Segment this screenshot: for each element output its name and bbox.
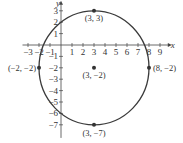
y-tick-label: −3 — [48, 74, 58, 84]
x-tick-label: 5 — [114, 47, 119, 57]
y-tick-label: −7 — [48, 120, 58, 130]
x-tick-label: 7 — [136, 47, 141, 57]
y-tick-label: 3 — [54, 6, 59, 16]
point-label: (3, −2) — [82, 70, 105, 80]
x-tick-label: 2 — [81, 47, 86, 57]
y-tick-label: −1 — [48, 51, 58, 61]
x-tick-label: 4 — [103, 47, 108, 57]
x-tick-label: −3 — [23, 47, 33, 57]
x-tick-label: 3 — [92, 47, 97, 57]
x-tick-label: 1 — [70, 47, 75, 57]
point-label: (3, −7) — [82, 128, 105, 138]
x-tick-label: 6 — [125, 47, 130, 57]
data-point — [147, 66, 151, 70]
point-label: (8, −2) — [153, 63, 176, 73]
point-labels: (3, 3)(3, −2)(−2, −2)(8, −2)(3, −7) — [8, 13, 176, 138]
y-tick-label: −4 — [48, 86, 58, 96]
data-point — [92, 123, 96, 127]
point-label: (3, 3) — [85, 13, 104, 23]
x-tick-label: 9 — [158, 47, 163, 57]
point-label: (−2, −2) — [8, 63, 36, 73]
y-tick-label: 1 — [54, 29, 59, 39]
y-tick-label: −2 — [48, 63, 58, 73]
circle-graph: xy −3−2−1123456789321−1−2−3−4−5−6−7 (3, … — [0, 0, 183, 143]
data-point — [37, 66, 41, 70]
x-axis-label: x — [170, 40, 175, 50]
